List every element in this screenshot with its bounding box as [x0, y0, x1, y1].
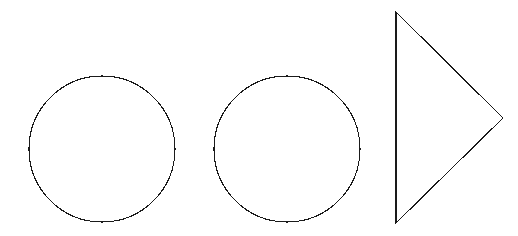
canvas-background: [0, 0, 518, 236]
shapes-svg: [0, 0, 518, 236]
figure-canvas: [0, 0, 518, 236]
